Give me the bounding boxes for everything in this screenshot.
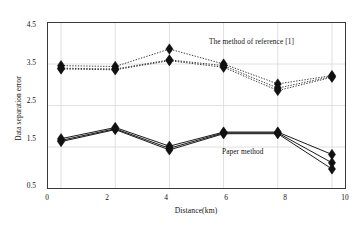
y-tick-label-4: 4.5 [10, 20, 36, 29]
x-tick-label-1: 2 [95, 193, 119, 202]
annotation-paper-method: Paper method [222, 147, 264, 156]
x-tick-label-3: 6 [214, 193, 238, 202]
y-tick-label-1: 1.5 [10, 134, 36, 143]
y-tick-label-3: 3.5 [10, 58, 36, 67]
x-tick-label-4: 8 [273, 193, 297, 202]
y-tick-label-2: 2.5 [10, 96, 36, 105]
x-tick-label-0: 0 [35, 193, 59, 202]
series-lines [61, 49, 332, 169]
gridlines [48, 23, 346, 189]
chart-figure: Data separation error Distance(km) 4.5 3… [0, 0, 361, 228]
x-axis-title: Distance(km) [47, 206, 345, 215]
x-tick-label-5: 10 [333, 193, 357, 202]
x-tick-label-2: 4 [154, 193, 178, 202]
annotation-reference-method: The method of reference [1] [209, 37, 294, 46]
series-markers [57, 44, 335, 174]
y-tick-label-0: 0.5 [10, 181, 36, 190]
